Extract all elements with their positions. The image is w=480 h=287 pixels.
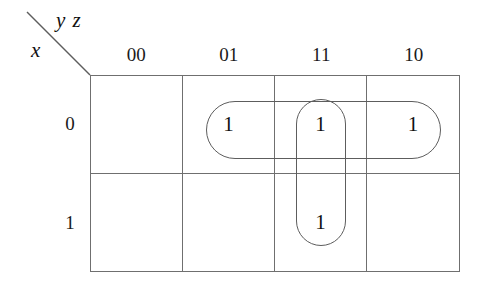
kmap-cell-row0-col00 (91, 76, 183, 174)
column-header-01: 01 (183, 40, 276, 70)
cell-value: 1 (223, 114, 234, 135)
kmap-cell-row1-col11: 1 (275, 174, 367, 272)
karnaugh-map-figure: y z x 00 01 11 10 0 1 1 1 1 1 (0, 0, 480, 287)
column-header-00: 00 (90, 40, 183, 70)
column-variables-label: y z (56, 10, 82, 31)
kmap-cell-row1-col00 (91, 174, 183, 272)
cell-value: 1 (315, 212, 326, 233)
kmap-grid: 1 1 1 1 (90, 75, 460, 272)
row-headers: 0 1 (56, 75, 84, 272)
row-header-0: 0 (56, 75, 84, 174)
kmap-cell-row0-col11: 1 (275, 76, 367, 174)
kmap-cell-row0-col10: 1 (367, 76, 459, 174)
cell-value: 1 (408, 114, 419, 135)
column-headers: 00 01 11 10 (90, 40, 460, 70)
cell-value: 1 (315, 114, 326, 135)
row-variable-label: x (31, 40, 40, 61)
column-header-11: 11 (275, 40, 368, 70)
kmap-cell-row1-col10 (367, 174, 459, 272)
kmap-cell-row1-col01 (183, 174, 275, 272)
column-header-10: 10 (368, 40, 461, 70)
kmap-cell-row0-col01: 1 (183, 76, 275, 174)
row-header-1: 1 (56, 174, 84, 273)
